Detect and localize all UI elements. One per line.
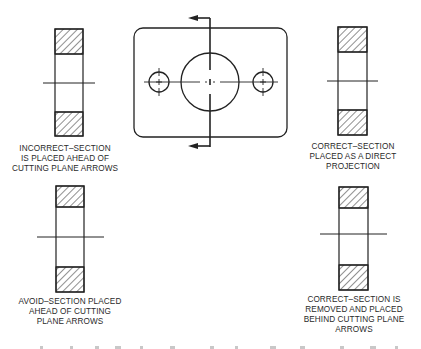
- cut-off-text-row: [40, 345, 420, 349]
- arrow-left-top-icon: [188, 15, 198, 21]
- caption-incorrect: INCORRECT–SECTION IS PLACED AHEAD OF CUT…: [4, 144, 126, 174]
- caption-line: PLANE ARROWS: [10, 317, 130, 327]
- caption-line: CORRECT–SECTION: [298, 142, 408, 152]
- caption-line: AHEAD OF CUTTING: [10, 307, 130, 317]
- caption-correct-projection: CORRECT–SECTION PLACED AS A DIRECT PROJE…: [298, 142, 408, 172]
- caption-line: AVOID–SECTION PLACED: [10, 297, 130, 307]
- section-view-correct-removed: [320, 187, 387, 290]
- section-view-incorrect: [43, 29, 95, 136]
- caption-correct-removed: CORRECT–SECTION IS REMOVED AND PLACED BE…: [295, 295, 413, 335]
- caption-line: BEHIND CUTTING PLANE: [295, 315, 413, 325]
- section-view-correct-projection: [327, 27, 378, 135]
- caption-line: PROJECTION: [298, 162, 408, 172]
- caption-line: INCORRECT–SECTION: [4, 144, 126, 154]
- caption-line: ARROWS: [295, 325, 413, 335]
- caption-avoid: AVOID–SECTION PLACED AHEAD OF CUTTING PL…: [10, 297, 130, 327]
- caption-line: CORRECT–SECTION IS: [295, 295, 413, 305]
- drawing-canvas: INCORRECT–SECTION IS PLACED AHEAD OF CUT…: [0, 0, 421, 349]
- caption-line: CUTTING PLANE ARROWS: [4, 164, 126, 174]
- caption-line: PLACED AS A DIRECT: [298, 152, 408, 162]
- caption-line: IS PLACED AHEAD OF: [4, 154, 126, 164]
- cutting-plane-line: [194, 18, 210, 147]
- caption-line: REMOVED AND PLACED: [295, 305, 413, 315]
- cut-off-text-glyphs: [40, 345, 420, 349]
- section-view-avoid: [37, 186, 104, 292]
- arrow-left-bottom-icon: [188, 143, 198, 149]
